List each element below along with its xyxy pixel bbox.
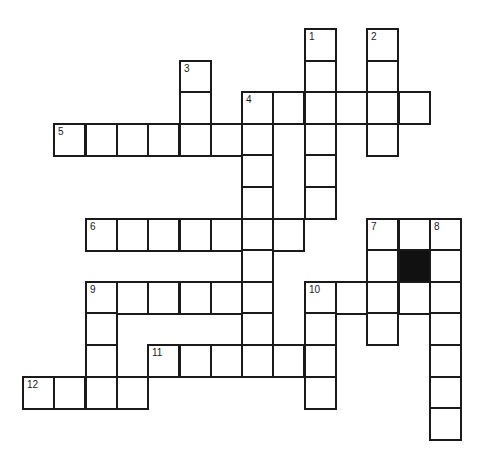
crossword-cell[interactable] — [241, 154, 274, 188]
crossword-cell[interactable] — [147, 123, 180, 157]
crossword-cell[interactable] — [179, 91, 212, 125]
crossword-cell[interactable]: 7 — [366, 218, 399, 252]
crossword-cell[interactable] — [398, 218, 431, 252]
crossword-cell[interactable] — [116, 218, 149, 252]
crossword-cell[interactable]: 11 — [147, 344, 180, 378]
crossword-cell[interactable] — [272, 344, 305, 378]
crossword-cell[interactable]: 5 — [53, 123, 86, 157]
crossword-cell[interactable] — [429, 249, 462, 283]
crossword-cell[interactable] — [179, 218, 212, 252]
crossword-cell[interactable] — [85, 123, 118, 157]
clue-number: 5 — [58, 127, 64, 137]
crossword-cell[interactable] — [210, 281, 243, 315]
clue-number: 6 — [90, 222, 96, 232]
crossword-cell[interactable] — [366, 123, 399, 157]
crossword-cell[interactable]: 8 — [429, 218, 462, 252]
crossword-cell[interactable] — [366, 91, 399, 125]
crossword-cell[interactable] — [304, 376, 337, 410]
crossword-cell[interactable] — [210, 344, 243, 378]
crossword-cell[interactable] — [241, 344, 274, 378]
clue-number: 10 — [309, 285, 320, 295]
crossword-cell[interactable] — [241, 218, 274, 252]
crossword-grid: 123456789101112 — [0, 0, 481, 468]
crossword-cell[interactable] — [272, 218, 305, 252]
crossword-cell[interactable] — [147, 218, 180, 252]
crossword-cell[interactable]: 12 — [22, 376, 55, 410]
crossword-cell[interactable] — [304, 91, 337, 125]
crossword-cell[interactable] — [179, 344, 212, 378]
crossword-cell[interactable] — [241, 249, 274, 283]
crossword-cell[interactable] — [429, 407, 462, 441]
clue-number: 4 — [246, 95, 252, 105]
crossword-cell[interactable] — [366, 60, 399, 94]
black-square — [398, 249, 431, 283]
crossword-cell[interactable] — [366, 312, 399, 346]
crossword-cell[interactable]: 2 — [366, 28, 399, 62]
crossword-cell[interactable]: 3 — [179, 60, 212, 94]
crossword-cell[interactable] — [210, 218, 243, 252]
clue-number: 8 — [434, 222, 440, 232]
crossword-cell[interactable] — [147, 281, 180, 315]
crossword-cell[interactable] — [241, 312, 274, 346]
crossword-cell[interactable] — [429, 344, 462, 378]
clue-number: 1 — [309, 32, 315, 42]
crossword-cell[interactable] — [85, 312, 118, 346]
clue-number: 3 — [184, 64, 190, 74]
crossword-cell[interactable]: 6 — [85, 218, 118, 252]
clue-number: 7 — [371, 222, 377, 232]
crossword-cell[interactable] — [304, 154, 337, 188]
crossword-cell[interactable]: 1 — [304, 28, 337, 62]
crossword-cell[interactable]: 4 — [241, 91, 274, 125]
crossword-cell[interactable]: 9 — [85, 281, 118, 315]
crossword-cell[interactable] — [304, 312, 337, 346]
crossword-cell[interactable] — [335, 281, 368, 315]
crossword-cell[interactable] — [429, 376, 462, 410]
crossword-cell[interactable] — [116, 376, 149, 410]
crossword-cell[interactable] — [304, 344, 337, 378]
crossword-cell[interactable] — [398, 91, 431, 125]
crossword-cell[interactable] — [366, 249, 399, 283]
clue-number: 9 — [90, 285, 96, 295]
crossword-cell[interactable] — [335, 91, 368, 125]
crossword-cell[interactable] — [241, 186, 274, 220]
clue-number: 2 — [371, 32, 377, 42]
crossword-cell[interactable] — [116, 281, 149, 315]
crossword-cell[interactable] — [272, 91, 305, 125]
crossword-cell[interactable] — [179, 281, 212, 315]
crossword-cell[interactable] — [304, 60, 337, 94]
crossword-cell[interactable] — [366, 281, 399, 315]
crossword-cell[interactable] — [398, 281, 431, 315]
crossword-cell[interactable] — [179, 123, 212, 157]
crossword-cell[interactable] — [210, 123, 243, 157]
crossword-cell[interactable] — [429, 281, 462, 315]
crossword-cell[interactable] — [304, 123, 337, 157]
crossword-cell[interactable]: 10 — [304, 281, 337, 315]
crossword-cell[interactable] — [85, 376, 118, 410]
clue-number: 12 — [27, 380, 38, 390]
crossword-cell[interactable] — [85, 344, 118, 378]
crossword-cell[interactable] — [241, 281, 274, 315]
crossword-cell[interactable] — [116, 123, 149, 157]
crossword-cell[interactable] — [429, 312, 462, 346]
crossword-cell[interactable] — [53, 376, 86, 410]
crossword-cell[interactable] — [304, 186, 337, 220]
crossword-cell[interactable] — [241, 123, 274, 157]
clue-number: 11 — [152, 348, 162, 358]
